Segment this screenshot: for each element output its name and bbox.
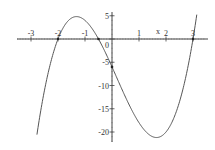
y-tick-label: -20 bbox=[98, 128, 109, 137]
x-tick-label: 1 bbox=[137, 29, 141, 38]
y-tick-label: 0 bbox=[105, 41, 109, 50]
y-intercept-marker bbox=[111, 66, 114, 69]
y-tick-label: -5 bbox=[102, 58, 109, 67]
root-marker bbox=[57, 38, 60, 41]
x-tick-label: 2 bbox=[164, 29, 168, 38]
x-tick-label: 3 bbox=[191, 29, 195, 38]
x-tick-label: -3 bbox=[28, 29, 35, 38]
root-marker bbox=[192, 38, 195, 41]
y-tick-label: 5 bbox=[105, 12, 109, 21]
x-tick-label: -1 bbox=[82, 29, 89, 38]
x-axis-label: x bbox=[156, 27, 160, 36]
x-tick-label: -2 bbox=[55, 29, 62, 38]
axes bbox=[17, 12, 208, 142]
plot-area: -3-2-1123x50-5-10-15-20 bbox=[0, 0, 215, 150]
y-tick-label: -15 bbox=[98, 105, 109, 114]
y-tick-label: -10 bbox=[98, 82, 109, 91]
root-marker bbox=[97, 38, 100, 41]
